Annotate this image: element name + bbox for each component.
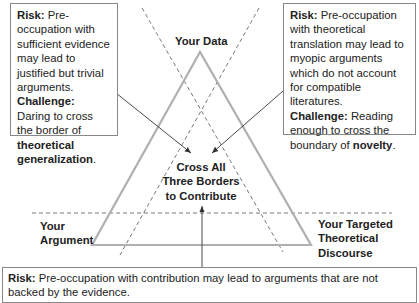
- period: .: [93, 153, 96, 165]
- period: .: [392, 139, 395, 151]
- left-vertex-label: Your Argument: [40, 219, 93, 248]
- left-label-line: Your: [40, 219, 93, 233]
- right-label-line: Theoretical: [318, 231, 393, 245]
- arrow-left: [116, 93, 191, 153]
- challenge-label: Challenge:: [290, 110, 348, 122]
- arrow-right: [212, 91, 283, 153]
- center-label-line: Cross All: [158, 160, 244, 174]
- apex-label: Your Data: [175, 34, 228, 48]
- risk-text: Pre-occupation with sufficient evidence …: [17, 9, 110, 93]
- risk-label: Risk:: [17, 9, 45, 21]
- challenge-keyword: novelty: [353, 139, 393, 151]
- challenge-label: Challenge:: [17, 95, 75, 107]
- right-label-line: Discourse: [318, 246, 393, 260]
- left-label-line: Argument: [40, 233, 93, 247]
- risk-label: Risk:: [290, 9, 318, 21]
- bottom-risk-box: Risk: Pre-occupation with contribution m…: [2, 267, 417, 303]
- triangle: [92, 52, 311, 245]
- center-label: Cross All Three Borders to Contribute: [158, 160, 244, 203]
- center-label-line: Three Borders: [158, 174, 244, 188]
- right-vertex-label: Your Targeted Theoretical Discourse: [318, 217, 393, 260]
- risk-text: Pre-occupation with theoretical translat…: [290, 9, 404, 107]
- center-label-line: to Contribute: [158, 189, 244, 203]
- left-risk-box: Risk: Pre-occupation with sufficient evi…: [10, 3, 118, 136]
- challenge-text: Daring to cross the border of: [17, 110, 93, 136]
- risk-label: Risk:: [8, 272, 36, 284]
- risk-text: Pre-occupation with contribution may lea…: [8, 272, 378, 298]
- right-risk-box: Risk: Pre-occupation with theoretical tr…: [283, 3, 416, 135]
- right-label-line: Your Targeted: [318, 217, 393, 231]
